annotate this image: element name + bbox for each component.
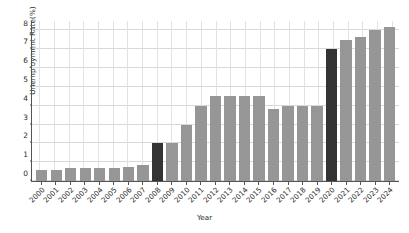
x-tick-mark: [70, 182, 71, 185]
y-tick-label: 2: [23, 133, 28, 140]
bar[interactable]: [36, 170, 47, 181]
bar-slot: [281, 21, 295, 181]
x-tick-mark: [200, 182, 201, 185]
bar-slot: [353, 21, 367, 181]
bar-slot: [107, 21, 121, 181]
bar-slot: [136, 21, 150, 181]
bar[interactable]: [355, 37, 366, 181]
bar[interactable]: [109, 168, 120, 181]
bar-slot: [324, 21, 338, 181]
x-tick-mark: [389, 182, 390, 185]
x-tick-mark: [288, 182, 289, 185]
x-tick-mark: [171, 182, 172, 185]
bar[interactable]: [253, 96, 264, 181]
bar-slot: [339, 21, 353, 181]
bar[interactable]: [210, 96, 221, 181]
bar-series: [32, 21, 399, 181]
bar-slot: [295, 21, 309, 181]
bar-slot: [78, 21, 92, 181]
bar[interactable]: [195, 106, 206, 181]
x-tick-mark: [157, 182, 158, 185]
bar-slot: [179, 21, 193, 181]
bar-slot: [35, 21, 49, 181]
bar[interactable]: [80, 168, 91, 181]
bar-slot: [49, 21, 63, 181]
x-tick-mark: [375, 182, 376, 185]
bar[interactable]: [137, 165, 148, 181]
bar[interactable]: [94, 168, 105, 181]
x-axis-label: Year: [0, 213, 409, 222]
bar-slot: [266, 21, 280, 181]
bar[interactable]: [65, 168, 76, 181]
x-tick-mark: [55, 182, 56, 185]
x-tick-mark: [215, 182, 216, 185]
bar[interactable]: [311, 106, 322, 181]
bar-slot: [150, 21, 164, 181]
bar-chart-figure: Unemployment Rate(%) 012345678 200020012…: [0, 0, 409, 233]
bar[interactable]: [239, 96, 250, 181]
bar-slot: [63, 21, 77, 181]
x-tick-mark: [346, 182, 347, 185]
bar-slot: [310, 21, 324, 181]
bar[interactable]: [268, 109, 279, 181]
x-tick-mark: [142, 182, 143, 185]
bar-slot: [252, 21, 266, 181]
bar-slot: [121, 21, 135, 181]
bar-slot: [165, 21, 179, 181]
x-tick-mark: [317, 182, 318, 185]
x-tick-mark: [244, 182, 245, 185]
y-tick-label: 5: [23, 76, 28, 83]
bar-slot: [92, 21, 106, 181]
x-tick-mark: [331, 182, 332, 185]
bar-slot: [382, 21, 396, 181]
x-tick-mark: [229, 182, 230, 185]
plot-area: 012345678: [31, 21, 399, 182]
bar[interactable]: [166, 143, 177, 181]
x-tick-mark: [258, 182, 259, 185]
bar-slot: [223, 21, 237, 181]
bar[interactable]: [123, 167, 134, 181]
bar[interactable]: [297, 106, 308, 181]
x-tick-mark: [113, 182, 114, 185]
bar-slot: [208, 21, 222, 181]
bar-highlighted[interactable]: [326, 49, 337, 181]
x-tick-mark: [84, 182, 85, 185]
x-tick-mark: [273, 182, 274, 185]
y-tick-label: 0: [23, 170, 28, 177]
bar[interactable]: [384, 27, 395, 181]
y-tick-label: 6: [23, 57, 28, 64]
x-tick-mark: [360, 182, 361, 185]
x-tick-mark: [41, 182, 42, 185]
y-tick-label: 7: [23, 39, 28, 46]
bar-slot: [194, 21, 208, 181]
bar-highlighted[interactable]: [152, 143, 163, 181]
y-tick-label: 1: [23, 152, 28, 159]
bar-slot: [237, 21, 251, 181]
y-tick-label: 3: [23, 114, 28, 121]
y-tick-label: 4: [23, 95, 28, 102]
y-tick-label: 8: [23, 20, 28, 27]
x-tick-mark: [99, 182, 100, 185]
bar[interactable]: [181, 125, 192, 181]
x-tick-mark: [186, 182, 187, 185]
bar[interactable]: [369, 30, 380, 181]
bar[interactable]: [51, 170, 62, 181]
bar[interactable]: [282, 106, 293, 181]
bar[interactable]: [340, 40, 351, 181]
x-tick-mark: [128, 182, 129, 185]
x-tick-mark: [302, 182, 303, 185]
bar[interactable]: [224, 96, 235, 181]
bar-slot: [368, 21, 382, 181]
